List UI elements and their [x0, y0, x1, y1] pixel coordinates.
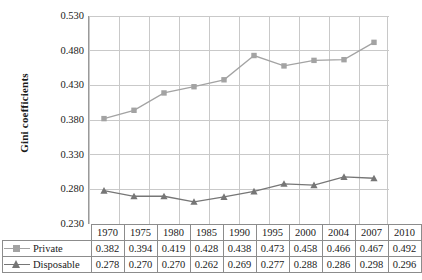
legend-line-private-icon [4, 244, 30, 253]
cell-disposable-1985: 0.262 [190, 257, 223, 273]
square-marker-icon [341, 57, 346, 62]
cell-disposable-2000: 0.288 [289, 257, 322, 273]
legend-label-private: Private [33, 243, 63, 254]
table-row: Disposable 0.278 0.270 0.270 0.262 0.269… [3, 257, 422, 273]
square-marker-icon [131, 108, 136, 113]
year-header-2004: 2004 [322, 225, 355, 241]
square-marker-icon [221, 77, 226, 82]
cell-disposable-1980: 0.270 [157, 257, 190, 273]
cell-private-1975: 0.394 [124, 241, 157, 257]
y-axis-title-wrap: Gini coefficients [4, 28, 20, 203]
cell-disposable-2004: 0.286 [322, 257, 355, 273]
triangle-marker-icon [100, 187, 107, 194]
legend-item-disposable: Disposable [3, 257, 92, 273]
data-table-wrap: 1970 1975 1980 1985 1990 1995 2000 2004 … [2, 224, 388, 273]
cell-private-2000: 0.458 [289, 241, 322, 257]
year-header-2000: 2000 [289, 225, 322, 241]
cell-disposable-1970: 0.278 [91, 257, 124, 273]
square-marker-icon [311, 58, 316, 63]
table-row: Private 0.382 0.394 0.419 0.428 0.438 0.… [3, 241, 422, 257]
year-header-1980: 1980 [157, 225, 190, 241]
square-marker-icon [191, 84, 196, 89]
table-header-row: 1970 1975 1980 1985 1990 1995 2000 2004 … [3, 225, 422, 241]
cell-disposable-1995: 0.277 [256, 257, 289, 273]
year-header-1990: 1990 [223, 225, 256, 241]
cell-private-1990: 0.438 [223, 241, 256, 257]
cell-private-2004: 0.466 [322, 241, 355, 257]
cell-private-1985: 0.428 [190, 241, 223, 257]
y-tick-0430: 0.430 [38, 80, 84, 90]
cell-private-2007: 0.467 [355, 241, 388, 257]
year-header-1975: 1975 [124, 225, 157, 241]
legend-label-disposable: Disposable [33, 259, 80, 270]
data-table: 1970 1975 1980 1985 1990 1995 2000 2004 … [2, 224, 422, 273]
year-header-2010: 2010 [388, 225, 421, 241]
cell-private-2010: 0.492 [388, 241, 421, 257]
square-marker-icon [13, 245, 20, 252]
square-marker-icon [101, 116, 106, 121]
plot-area [88, 16, 388, 224]
year-header-1970: 1970 [91, 225, 124, 241]
chart-svg [89, 16, 389, 224]
cell-disposable-2010: 0.296 [388, 257, 421, 273]
square-marker-icon [281, 63, 286, 68]
y-tick-0280: 0.280 [38, 184, 84, 194]
table-corner-blank [3, 225, 92, 241]
year-header-1995: 1995 [256, 225, 289, 241]
y-tick-0380: 0.380 [38, 115, 84, 125]
y-tick-0480: 0.480 [38, 46, 84, 56]
y-axis-tick-labels: 0.530 0.480 0.430 0.380 0.330 0.280 0.23… [22, 0, 84, 232]
square-marker-icon [161, 90, 166, 95]
cell-disposable-1975: 0.270 [124, 257, 157, 273]
square-marker-icon [371, 40, 376, 45]
legend-line-disposable-icon [4, 260, 30, 269]
y-tick-0530: 0.530 [38, 11, 84, 21]
cell-private-1995: 0.473 [256, 241, 289, 257]
cell-private-1980: 0.419 [157, 241, 190, 257]
square-marker-icon [251, 53, 256, 58]
year-header-1985: 1985 [190, 225, 223, 241]
triangle-marker-icon [12, 260, 20, 268]
cell-disposable-2007: 0.298 [355, 257, 388, 273]
cell-disposable-1990: 0.269 [223, 257, 256, 273]
year-header-2007: 2007 [355, 225, 388, 241]
cell-private-1970: 0.382 [91, 241, 124, 257]
y-tick-0330: 0.330 [38, 150, 84, 160]
legend-item-private: Private [3, 241, 92, 257]
